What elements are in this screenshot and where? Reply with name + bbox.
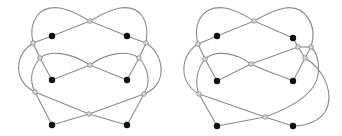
crossing-node xyxy=(38,56,43,61)
crossing-node xyxy=(309,45,314,50)
edge-curve xyxy=(251,64,293,81)
edge-curve xyxy=(205,53,251,64)
edge-curve xyxy=(90,53,139,65)
edge-curve xyxy=(33,21,146,43)
edge-curve xyxy=(32,8,90,43)
edge-curve xyxy=(32,58,40,92)
edge-curve xyxy=(35,92,127,125)
crossing-node xyxy=(33,90,38,95)
knot-diagrams xyxy=(0,0,342,136)
crossing-node xyxy=(303,56,308,61)
edge-curve xyxy=(199,94,293,126)
crossing-node xyxy=(296,45,301,50)
edge-curve xyxy=(293,47,311,81)
edge-curve xyxy=(52,94,144,125)
edge-curve xyxy=(198,21,298,47)
crossing-node xyxy=(197,92,202,97)
vertex-node xyxy=(214,123,220,129)
vertex-node xyxy=(49,33,55,39)
vertex-node xyxy=(124,33,130,39)
crossing-node xyxy=(249,62,254,67)
crossing-node xyxy=(88,19,93,24)
vertex-node xyxy=(124,122,130,128)
edge-curve xyxy=(197,8,254,44)
right-figure xyxy=(184,8,329,130)
crossing-node xyxy=(252,19,257,24)
edge-curve xyxy=(40,53,90,65)
vertex-node xyxy=(49,77,55,83)
edge-curve xyxy=(35,92,52,125)
edge-curve xyxy=(139,58,148,94)
vertex-node xyxy=(49,122,55,128)
vertex-node xyxy=(214,33,220,39)
edge-curve xyxy=(217,47,298,81)
edge-curve xyxy=(293,58,329,126)
vertex-node xyxy=(290,78,296,84)
vertex-node xyxy=(290,35,296,41)
edge-curve xyxy=(144,43,161,94)
crossing-node xyxy=(88,63,93,68)
crossing-node xyxy=(263,115,268,120)
vertex-node xyxy=(290,123,296,129)
edge-curve xyxy=(127,94,144,125)
crossing-node xyxy=(196,42,201,47)
left-figure xyxy=(19,8,162,129)
crossing-node xyxy=(203,57,208,62)
edge-curve xyxy=(127,43,146,80)
crossing-node xyxy=(137,56,142,61)
crossing-node xyxy=(144,41,149,46)
crossing-node xyxy=(31,41,36,46)
vertex-node xyxy=(214,78,220,84)
diagram-canvas xyxy=(0,0,342,136)
crossing-node xyxy=(87,112,92,117)
edge-curve xyxy=(254,8,313,47)
edge-curve xyxy=(33,43,52,80)
vertex-node xyxy=(124,77,130,83)
edge-curve xyxy=(197,59,205,94)
crossing-node xyxy=(142,92,147,97)
edge-curve xyxy=(198,44,217,81)
edge-curve xyxy=(90,8,147,43)
